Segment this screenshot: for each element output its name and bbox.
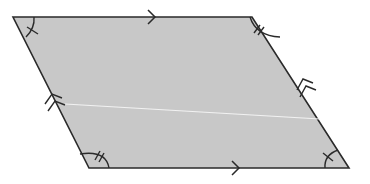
parallelogram-diagram (0, 0, 370, 184)
parallelogram-body (13, 17, 349, 168)
